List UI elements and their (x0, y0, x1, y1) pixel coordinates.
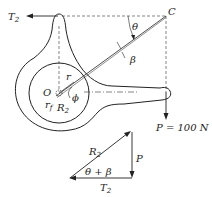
label-R2: R2 (56, 102, 70, 115)
label-phi: ϕ (72, 92, 79, 103)
lever-body (15, 14, 170, 131)
lever-friction-diagram: T2 C θ β O r rf ϕ R2 P = 100 N R2 P θ + … (0, 0, 212, 197)
triangle-label-T2: T2 (100, 182, 112, 195)
triangle-label-R2: R2 (88, 146, 102, 159)
label-C: C (168, 6, 176, 17)
diagram-canvas: T2 C θ β O r rf ϕ R2 P = 100 N R2 P θ + … (0, 0, 212, 197)
triangle-label-angle: θ + β (85, 166, 112, 177)
load-arrow (164, 92, 169, 120)
label-beta: β (129, 54, 136, 65)
label-rf: rf (45, 99, 54, 112)
triangle-label-P: P (135, 153, 143, 164)
label-r: r (66, 71, 72, 82)
tension-arrow (26, 14, 58, 19)
resultant-line (56, 16, 166, 98)
label-T2: T2 (8, 11, 20, 24)
label-theta: θ (132, 21, 138, 32)
label-P-value: P = 100 N (155, 122, 210, 133)
label-O: O (43, 87, 51, 98)
